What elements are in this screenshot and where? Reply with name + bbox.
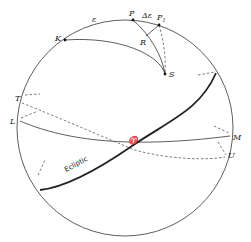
label-s: S (169, 70, 175, 79)
equator-arc (20, 121, 230, 142)
dash-u (218, 142, 226, 155)
sphere-outline (17, 20, 233, 236)
dashed-arc-t-u (22, 103, 225, 159)
point-p (132, 19, 135, 22)
arc-k-s (65, 39, 165, 74)
dashed-p1-s (159, 25, 165, 74)
arc-p-s (133, 20, 165, 74)
label-vernal-equinox: ♈ (128, 135, 140, 145)
celestial-sphere-diagram: P Δε P1 ε K R S T L M U ♈ Ecliptic (0, 0, 251, 242)
label-t: T (15, 94, 21, 103)
point-p1 (158, 24, 161, 27)
dash-m (214, 126, 229, 133)
line-r-p1 (146, 25, 159, 36)
label-r: R (139, 38, 146, 47)
label-k: K (54, 34, 62, 43)
point-k (64, 39, 67, 42)
dash-t (25, 94, 40, 95)
dash-ecliptic-bottom (38, 160, 45, 175)
label-epsilon: ε (92, 15, 96, 24)
label-p: P (128, 9, 135, 18)
label-delta-epsilon: Δε (141, 11, 152, 20)
label-ecliptic: Ecliptic (63, 155, 89, 174)
dash-ecliptic-top (198, 72, 215, 75)
point-s (164, 73, 167, 76)
label-m: M (232, 133, 242, 142)
dash-l (21, 111, 38, 118)
label-l: L (9, 117, 15, 126)
label-p1: P1 (156, 13, 166, 23)
label-u: U (228, 151, 235, 160)
